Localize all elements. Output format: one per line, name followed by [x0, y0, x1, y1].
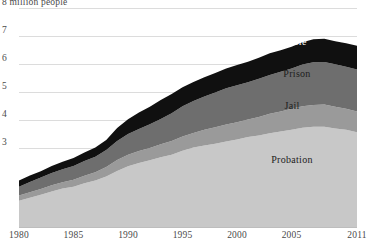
x-tick-label-1980: 1980	[9, 230, 29, 241]
x-tick-label-2011: 2011	[347, 230, 366, 241]
series-label-parole: Parole	[279, 36, 306, 47]
area-plot	[0, 0, 370, 227]
series-label-prison: Prison	[283, 68, 310, 79]
series-label-probation: Probation	[271, 154, 313, 165]
stacked-area-chart: 8 million people76543 ParolePrisonJailPr…	[0, 0, 370, 244]
series-label-jail: Jail	[284, 100, 299, 111]
x-axis-line	[19, 227, 357, 228]
x-tick-label-1995: 1995	[173, 230, 193, 241]
x-tick-label-1990: 1990	[118, 230, 138, 241]
x-tick-label-2005: 2005	[282, 230, 302, 241]
x-tick-label-1985: 1985	[64, 230, 84, 241]
x-tick-label-2000: 2000	[227, 230, 247, 241]
